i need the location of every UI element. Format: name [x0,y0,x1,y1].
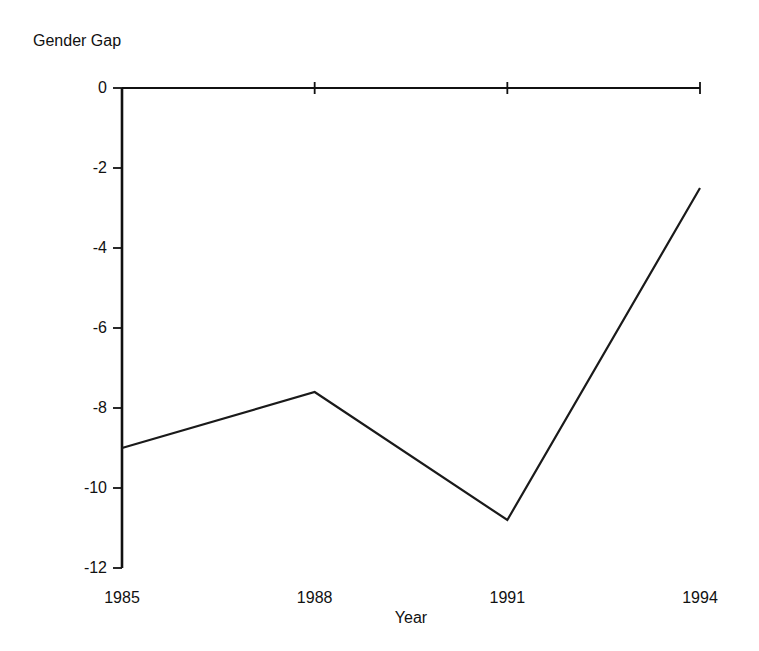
plot-area [0,0,759,651]
y-tick-label: -12 [47,560,107,576]
y-tick-label: -8 [47,400,107,416]
gender-gap-line-chart: Gender Gap 0-2-4-6-8-10-12 1985198819911… [0,0,759,651]
x-tick-label: 1988 [255,590,375,606]
x-tick-label: 1994 [640,590,759,606]
x-axis-title: Year [32,608,759,628]
x-tick-label: 1985 [62,590,182,606]
y-tick-label: -10 [47,480,107,496]
x-tick-label: 1991 [447,590,567,606]
axis-group [122,88,700,568]
y-tick-label: 0 [47,80,107,96]
y-tick-label: -6 [47,320,107,336]
data-series-line [122,188,700,520]
y-tick-marks [113,88,122,568]
y-tick-label: -2 [47,160,107,176]
y-tick-label: -4 [47,240,107,256]
